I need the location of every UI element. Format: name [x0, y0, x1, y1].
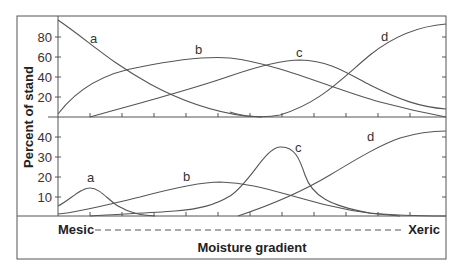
top-label-d: d	[381, 29, 388, 44]
y-axis-title: Percent of stand	[21, 66, 36, 168]
top-y-tick-20: 20	[38, 90, 52, 105]
top-panel-right-ticks	[442, 37, 446, 97]
bottom-label-c: c	[295, 140, 302, 155]
bottom-label-a: a	[87, 170, 95, 185]
top-y-tick-60: 60	[38, 50, 52, 65]
top-label-b: b	[195, 42, 202, 57]
top-curve-a	[58, 20, 262, 117]
bottom-panel-right-ticks	[442, 137, 446, 197]
bottom-y-tick-40: 40	[38, 130, 52, 145]
bottom-y-tick-30: 30	[38, 150, 52, 165]
x-left-label: Mesic	[58, 222, 94, 237]
x-right-label: Xeric	[408, 222, 440, 237]
bottom-y-tick-10: 10	[38, 190, 52, 205]
ecological-gradient-figure: 20 40 60 80 10 20 30 40 Percent of stand…	[0, 0, 459, 273]
top-y-tick-80: 80	[38, 30, 52, 45]
bottom-label-d: d	[367, 129, 374, 144]
top-label-a: a	[90, 31, 98, 46]
top-label-c: c	[296, 45, 303, 60]
x-axis-title: Moisture gradient	[197, 240, 307, 255]
bottom-y-tick-20: 20	[38, 170, 52, 185]
bottom-label-b: b	[183, 169, 190, 184]
top-y-tick-40: 40	[38, 70, 52, 85]
top-curve-c	[90, 60, 446, 117]
bottom-panel-curves	[58, 131, 446, 216]
top-curve-b	[58, 57, 446, 117]
bottom-curve-d	[238, 131, 446, 216]
